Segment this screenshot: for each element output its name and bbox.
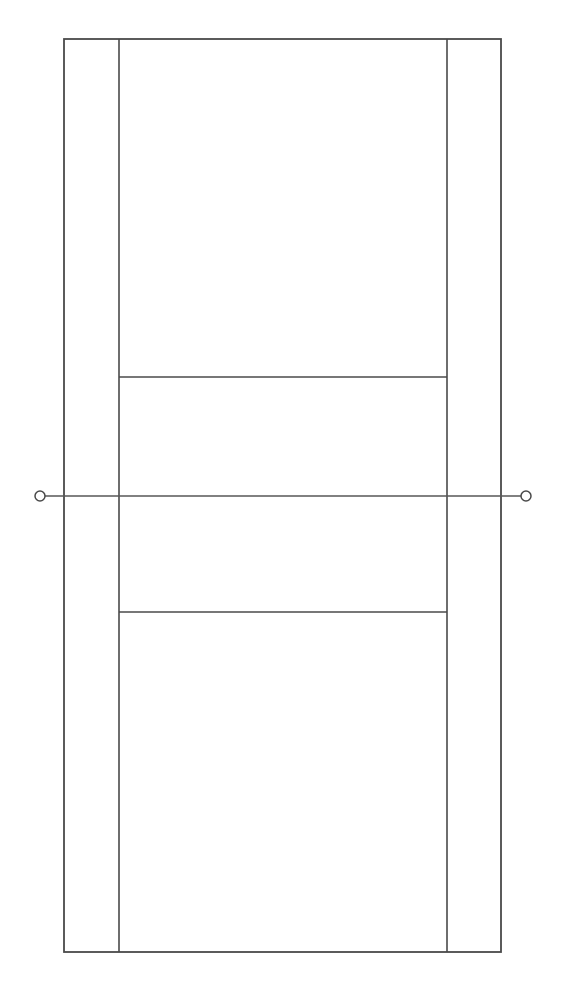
- net-post-left-icon: [35, 491, 45, 501]
- tennis-court-diagram: [0, 0, 564, 998]
- net-post-right-icon: [521, 491, 531, 501]
- court-drawing-canvas: [0, 0, 564, 998]
